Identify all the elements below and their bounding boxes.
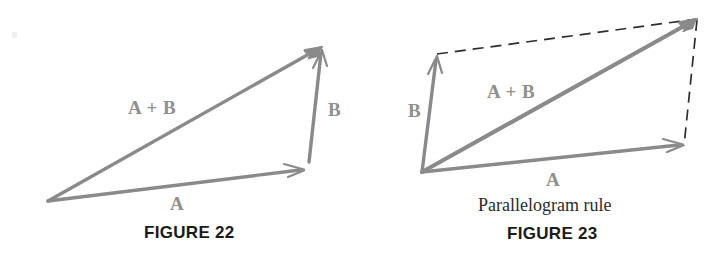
figure23-vector-b bbox=[422, 56, 442, 172]
figure23-label-sum: A + B bbox=[487, 82, 535, 101]
figure23-dashed-top bbox=[437, 19, 697, 54]
figure23-dashed-right bbox=[684, 20, 697, 146]
figure23-label-b: B bbox=[408, 101, 421, 120]
figure23-subcaption: Parallelogram rule bbox=[478, 196, 611, 214]
figure-canvas: A + B B A FIGURE 22 B A + B A bbox=[0, 0, 720, 269]
figure23-vector-a bbox=[422, 139, 683, 172]
figure23-caption: FIGURE 23 bbox=[507, 225, 598, 242]
figure-23-diagram bbox=[0, 0, 720, 269]
figure23-label-a: A bbox=[546, 170, 560, 189]
